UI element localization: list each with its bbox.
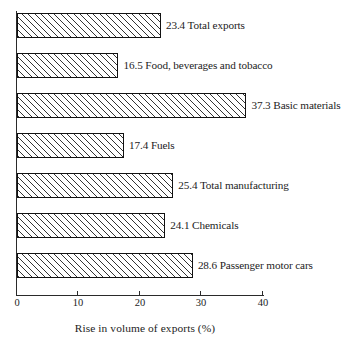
bar-row: 17.4 Fuels [17, 133, 175, 158]
x-tick-label: 30 [196, 298, 207, 309]
bar-total-exports [17, 13, 161, 38]
bar-row: 24.1 Chemicals [17, 213, 238, 238]
bar-food-beverages-tobacco [17, 53, 118, 78]
x-axis-title: Rise in volume of exports (%) [0, 322, 290, 334]
bar-chemicals [17, 213, 165, 238]
bar-row: 28.6 Passenger motor cars [17, 253, 313, 278]
plot-area: 23.4 Total exports 16.5 Food, beverages … [0, 0, 363, 344]
bar-label: 28.6 Passenger motor cars [198, 260, 313, 271]
bar-chart: 23.4 Total exports 16.5 Food, beverages … [0, 0, 363, 344]
x-tick [77, 291, 78, 296]
x-tick-label: 0 [14, 298, 19, 309]
bar-label: 25.4 Total manufacturing [178, 180, 289, 191]
bar-label: 17.4 Fuels [129, 140, 175, 151]
x-tick [139, 291, 140, 296]
y-axis-line [16, 11, 17, 296]
bar-label: 24.1 Chemicals [170, 220, 238, 231]
bar-row: 16.5 Food, beverages and tobacco [17, 53, 273, 78]
x-tick-label: 20 [135, 298, 146, 309]
x-tick [200, 291, 201, 296]
bar-fuels [17, 133, 124, 158]
bar-row: 25.4 Total manufacturing [17, 173, 289, 198]
bar-row: 23.4 Total exports [17, 13, 245, 38]
x-tick-label: 10 [73, 298, 84, 309]
bar-label: 16.5 Food, beverages and tobacco [123, 60, 272, 71]
x-tick [262, 291, 263, 296]
bar-row: 37.3 Basic materials [17, 93, 340, 118]
bar-basic-materials [17, 93, 246, 118]
x-tick [16, 291, 17, 296]
bar-total-manufacturing [17, 173, 173, 198]
bar-label: 23.4 Total exports [166, 20, 245, 31]
bar-passenger-motor-cars [17, 253, 193, 278]
bar-label: 37.3 Basic materials [251, 100, 340, 111]
x-tick-label: 40 [258, 298, 269, 309]
